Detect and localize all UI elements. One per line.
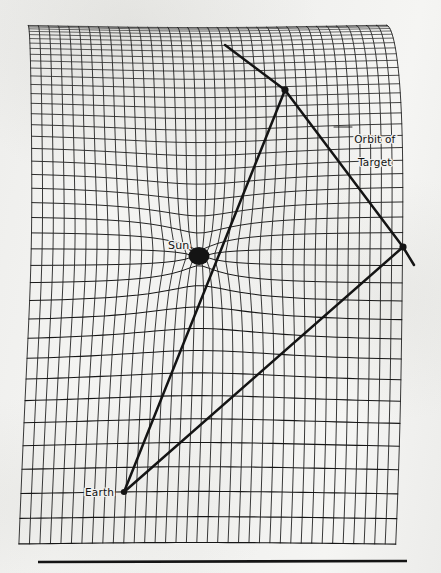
bottom-rule xyxy=(38,561,407,562)
grid-line-horizontal xyxy=(31,75,399,79)
grid-line-vertical xyxy=(237,27,246,542)
grid-line-vertical xyxy=(113,27,130,543)
target-position-1-marker xyxy=(281,87,288,94)
earth-to-target-2 xyxy=(124,247,403,492)
grid-line-horizontal xyxy=(30,286,402,301)
grid-line-vertical xyxy=(316,26,328,543)
orbit-of-target-label: Orbit of Target xyxy=(340,122,396,181)
earth-label: Earth xyxy=(85,487,114,499)
sun-label: Sun xyxy=(168,240,190,252)
target-position-2-marker xyxy=(399,244,406,251)
orbit-label-line-2: Target xyxy=(358,156,392,168)
orbit-label-line-1: Orbit of xyxy=(354,133,395,145)
grid-line-vertical xyxy=(267,27,277,543)
grid-line-horizontal xyxy=(31,113,401,119)
grid-line-vertical xyxy=(92,27,108,544)
grid-line-horizontal xyxy=(26,373,401,380)
grid-line-horizontal xyxy=(28,329,402,339)
grid-line-vertical xyxy=(197,28,206,543)
grid-line-vertical xyxy=(306,27,317,544)
grid-line-horizontal xyxy=(27,351,401,360)
grid-line-horizontal xyxy=(31,93,400,98)
grid-line-vertical xyxy=(19,25,32,544)
grid-line-horizontal xyxy=(31,84,400,88)
warped-spacetime-grid xyxy=(19,25,403,544)
grid-line-horizontal xyxy=(30,266,402,283)
grid-line-horizontal xyxy=(25,396,400,402)
grid-line-horizontal xyxy=(32,217,403,233)
earth-marker xyxy=(121,489,127,495)
sun-marker xyxy=(189,247,210,265)
grid-line-horizontal xyxy=(32,187,403,199)
grid-line-vertical xyxy=(82,26,97,543)
figure-root: Sun Earth Orbit of Target xyxy=(0,0,441,573)
bottom-rule xyxy=(38,561,407,562)
grid-line-vertical xyxy=(215,28,226,543)
grid-line-vertical xyxy=(186,28,199,543)
grid-line-vertical xyxy=(134,27,153,543)
grid-line-vertical xyxy=(166,27,187,542)
grid-line-vertical xyxy=(257,27,266,543)
grid-line-horizontal xyxy=(24,419,400,424)
grid-line-vertical xyxy=(226,27,236,542)
grid-line-horizontal xyxy=(29,307,402,320)
grid-line-horizontal xyxy=(32,202,403,216)
grid-line-vertical xyxy=(247,27,256,542)
grid-line-vertical xyxy=(155,27,175,542)
spacetime-diagram-svg xyxy=(0,0,441,573)
grid-line-horizontal xyxy=(31,103,401,108)
grid-line-vertical xyxy=(296,27,307,543)
grid-line-vertical xyxy=(124,27,142,543)
